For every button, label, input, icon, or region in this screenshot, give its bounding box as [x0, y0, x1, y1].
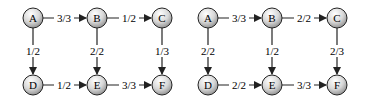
edge-label: 1/2: [265, 45, 279, 57]
edge-b-e: 1/2: [262, 28, 282, 74]
edge-label: 3/3: [57, 12, 72, 24]
node-d: D: [198, 75, 218, 95]
edge-label: 2/2: [201, 45, 215, 57]
svg-text:A: A: [29, 12, 37, 24]
node-d: D: [23, 75, 43, 95]
edge-label: 2/3: [330, 45, 345, 57]
node-f: F: [327, 75, 347, 95]
edge-b-c: 2/2: [282, 12, 326, 24]
node-f: F: [152, 75, 172, 95]
graph-2: 3/3 2/2 2/2 3/3 2/2 1/2: [198, 8, 347, 95]
edge-e-f: 3/3: [107, 79, 151, 91]
svg-text:B: B: [93, 12, 100, 24]
svg-text:C: C: [158, 12, 165, 24]
flow-network-diagrams: 3/3 1/2 1/2 3/3 1/2 2/2: [0, 0, 367, 103]
edge-label: 1/2: [57, 79, 71, 91]
edge-label: 1/2: [26, 45, 40, 57]
svg-text:A: A: [204, 12, 212, 24]
node-b: B: [87, 8, 107, 28]
edge-e-f: 3/3: [282, 79, 326, 91]
edge-d-e: 2/2: [218, 79, 261, 91]
edge-label: 3/3: [232, 12, 247, 24]
node-e: E: [87, 75, 107, 95]
node-a: A: [23, 8, 43, 28]
svg-text:B: B: [268, 12, 275, 24]
edge-b-c: 1/2: [107, 12, 151, 24]
svg-text:E: E: [94, 79, 101, 91]
edge-label: 2/2: [297, 12, 311, 24]
node-b: B: [262, 8, 282, 28]
svg-text:C: C: [333, 12, 340, 24]
svg-text:E: E: [269, 79, 276, 91]
edge-label: 3/3: [297, 79, 312, 91]
edge-label: 1/3: [155, 45, 170, 57]
edge-label: 1/2: [122, 12, 136, 24]
node-c: C: [327, 8, 347, 28]
edge-label: 2/2: [232, 79, 246, 91]
edge-a-b: 3/3: [218, 12, 261, 24]
svg-text:D: D: [204, 79, 212, 91]
edge-c-f: 1/3: [152, 28, 172, 74]
edge-a-b: 3/3: [43, 12, 86, 24]
edge-label: 3/3: [122, 79, 137, 91]
edge-c-f: 2/3: [327, 28, 347, 74]
svg-text:F: F: [334, 79, 340, 91]
node-e: E: [262, 75, 282, 95]
edge-b-e: 2/2: [87, 28, 107, 74]
edge-a-d: 2/2: [198, 28, 218, 74]
edge-d-e: 1/2: [43, 79, 86, 91]
edge-label: 2/2: [90, 45, 104, 57]
node-c: C: [152, 8, 172, 28]
edge-a-d: 1/2: [23, 28, 43, 74]
node-a: A: [198, 8, 218, 28]
svg-text:F: F: [159, 79, 165, 91]
svg-text:D: D: [29, 79, 37, 91]
graph-1: 3/3 1/2 1/2 3/3 1/2 2/2: [23, 8, 172, 95]
